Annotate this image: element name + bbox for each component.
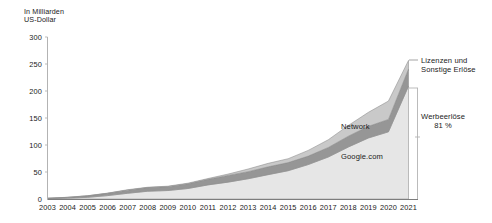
y-tick-label: 200 [16,87,42,96]
stacked-area-plot [0,0,492,223]
y-tick-label: 150 [16,114,42,123]
x-tick-label: 2021 [396,203,422,212]
licenses-callout-label: Lizenzen und Sonstige Erlöse [421,56,476,74]
callout-bracket-group [409,60,420,199]
advertising-callout-label: Werbeerlöse 81 % [421,112,465,130]
chart-container: In Milliarden US-Dollar 0501001502002503… [0,0,492,223]
network-series-label: Network [341,122,370,131]
y-tick-label: 100 [16,141,42,150]
y-tick-label: 250 [16,60,42,69]
google-com-series-label: Google.com [341,152,383,161]
y-tick-label: 300 [16,33,42,42]
y-tick-label: 50 [16,168,42,177]
